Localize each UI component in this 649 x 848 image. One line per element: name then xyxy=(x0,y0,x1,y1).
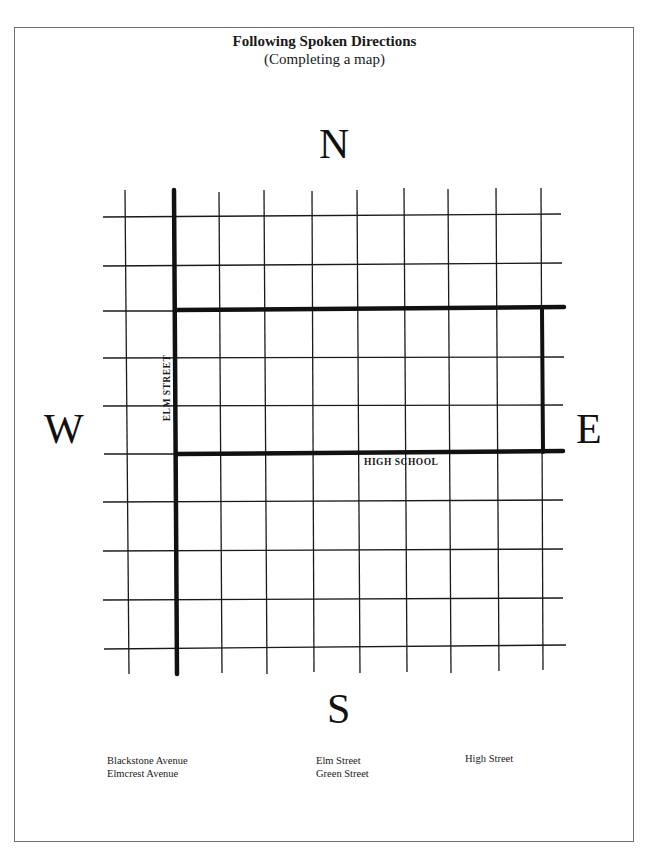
thick-lines xyxy=(174,190,564,674)
street-option: Elmcrest Avenue xyxy=(107,767,188,780)
street-option: Elm Street xyxy=(316,754,369,767)
street-line-h9 xyxy=(103,598,563,600)
street-line-h10 xyxy=(104,645,566,649)
street-line-v7 xyxy=(404,188,407,672)
street-grid-map xyxy=(0,0,649,848)
street-line-h5 xyxy=(103,405,563,406)
street-line-v8 xyxy=(448,189,451,673)
street-line-h2 xyxy=(103,263,562,266)
high-school-south-line xyxy=(176,451,563,454)
street-option: High Street xyxy=(465,752,513,765)
street-option: Green Street xyxy=(316,767,369,780)
street-line-v4 xyxy=(264,190,267,674)
street-line-v3 xyxy=(219,192,222,673)
street-options-column-3: High Street xyxy=(465,752,513,765)
street-line-v6 xyxy=(357,190,360,673)
street-line-h7 xyxy=(103,500,563,502)
street-line-h1 xyxy=(103,214,561,217)
high-school-east-line xyxy=(542,308,543,452)
street-options-column-1: Blackstone Avenue Elmcrest Avenue xyxy=(107,754,188,780)
street-options-column-2: Elm Street Green Street xyxy=(316,754,369,780)
elm-street-line xyxy=(174,190,177,674)
street-line-v1 xyxy=(125,190,129,674)
street-line-h4 xyxy=(103,357,564,358)
street-line-h8 xyxy=(103,549,563,551)
high-school-north-line xyxy=(175,307,564,310)
street-line-v5 xyxy=(312,191,314,672)
street-option: Blackstone Avenue xyxy=(107,754,188,767)
elm-street-label: ELM STREET xyxy=(162,343,172,433)
high-school-label: HIGH SCHOOL xyxy=(364,457,438,467)
